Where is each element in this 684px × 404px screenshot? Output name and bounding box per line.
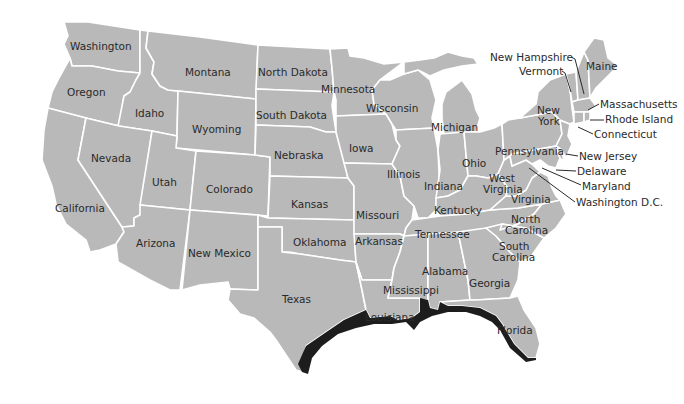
label-florida: Florida xyxy=(497,324,533,336)
label-oregon: Oregon xyxy=(67,86,106,98)
label-washington: Washington xyxy=(70,40,132,52)
label-connecticut: Connecticut xyxy=(594,128,657,140)
label-nebraska: Nebraska xyxy=(274,149,324,161)
leader-connecticut xyxy=(578,127,593,134)
label-idaho: Idaho xyxy=(135,107,164,119)
label-colorado: Colorado xyxy=(206,183,253,195)
label-wisconsin: Wisconsin xyxy=(366,102,418,114)
label-maryland: Maryland xyxy=(582,180,631,192)
label-north-dakota: North Dakota xyxy=(258,66,328,78)
label-washington-dc: Washington D.C. xyxy=(576,196,663,208)
label-pennsylvania: Pennsylvania xyxy=(495,145,564,157)
label-west-virginia-line2: Virginia xyxy=(483,183,523,195)
state-rhode-island[interactable] xyxy=(584,112,590,122)
label-arkansas: Arkansas xyxy=(355,235,403,247)
leader-delaware xyxy=(556,170,576,171)
label-california: California xyxy=(55,202,105,214)
label-wyoming: Wyoming xyxy=(192,123,241,135)
label-michigan: Michigan xyxy=(431,121,478,133)
label-kentucky: Kentucky xyxy=(434,204,482,216)
label-oklahoma: Oklahoma xyxy=(293,236,346,248)
label-alabama: Alabama xyxy=(422,265,468,277)
state-connecticut[interactable] xyxy=(574,112,584,124)
label-minnesota: Minnesota xyxy=(321,83,375,95)
label-nevada: Nevada xyxy=(91,152,131,164)
label-tennessee: Tennessee xyxy=(414,228,470,240)
label-south-carolina-line2: Carolina xyxy=(492,251,535,263)
label-vermont: Vermont xyxy=(519,65,563,77)
label-maine: Maine xyxy=(586,60,618,72)
label-kansas: Kansas xyxy=(291,198,328,210)
label-new-jersey: New Jersey xyxy=(579,150,637,162)
label-massachusetts: Massachusetts xyxy=(600,98,678,110)
label-mississippi: Mississippi xyxy=(383,284,439,296)
label-georgia: Georgia xyxy=(469,277,510,289)
label-texas: Texas xyxy=(281,293,311,305)
label-new-hampshire: New Hampshire xyxy=(490,51,573,63)
label-montana: Montana xyxy=(185,66,231,78)
label-utah: Utah xyxy=(152,176,177,188)
label-delaware: Delaware xyxy=(577,165,626,177)
label-iowa: Iowa xyxy=(349,142,374,154)
us-map: Washington Oregon California Idaho Nevad… xyxy=(0,0,684,404)
label-rhode-island: Rhode Island xyxy=(605,113,673,125)
label-south-dakota: South Dakota xyxy=(256,109,327,121)
label-missouri: Missouri xyxy=(356,209,399,221)
label-ohio: Ohio xyxy=(462,157,486,169)
label-new-mexico: New Mexico xyxy=(188,247,251,259)
state-massachusetts[interactable] xyxy=(572,98,596,112)
label-illinois: Illinois xyxy=(387,168,420,180)
label-new-york-line2: York xyxy=(537,115,561,127)
label-louisiana: Louisiana xyxy=(365,311,415,323)
label-north-carolina-line2: Carolina xyxy=(505,224,548,236)
label-indiana: Indiana xyxy=(424,180,463,192)
label-arizona: Arizona xyxy=(136,237,175,249)
